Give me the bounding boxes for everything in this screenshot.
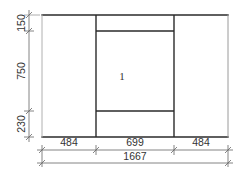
outer-frame (42, 15, 228, 137)
panel-dividers (96, 15, 174, 137)
dim-label-overall-width: 1667 (123, 150, 147, 162)
window-elevation-drawing: 1 150 750 230 484 699 484 1667 (0, 0, 246, 181)
dim-label-right-width: 484 (192, 136, 210, 148)
dim-label-bottom-height: 230 (15, 115, 27, 133)
dim-label-top-height: 150 (15, 14, 27, 32)
dim-label-left-width: 484 (60, 136, 78, 148)
dim-label-center-width: 699 (126, 136, 144, 148)
dim-label-middle-height: 750 (15, 62, 27, 80)
panel-label: 1 (119, 70, 125, 82)
